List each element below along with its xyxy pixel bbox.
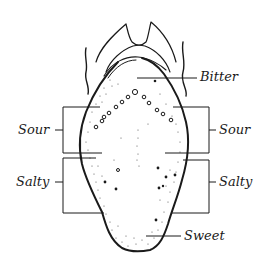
sour-left-bracket	[63, 107, 102, 153]
label-sweet: Sweet	[184, 229, 225, 243]
stipple-texture	[85, 79, 180, 246]
left-fold	[85, 48, 88, 94]
right-fold	[182, 42, 186, 96]
label-salty-right: Salty	[219, 175, 252, 189]
salty-right-bracket	[172, 160, 209, 213]
label-sour-left: Sour	[18, 123, 49, 137]
epiglottis-inner	[106, 45, 170, 72]
label-bitter: Bitter	[200, 70, 238, 84]
label-leaders	[55, 78, 216, 236]
label-sour-right: Sour	[219, 123, 250, 137]
epiglottis-outline	[96, 22, 176, 62]
label-salty-left: Salty	[16, 175, 49, 189]
circumvallate-papillae	[94, 89, 173, 171]
fungiform-papillae	[104, 80, 177, 222]
tongue-outline	[80, 58, 188, 251]
